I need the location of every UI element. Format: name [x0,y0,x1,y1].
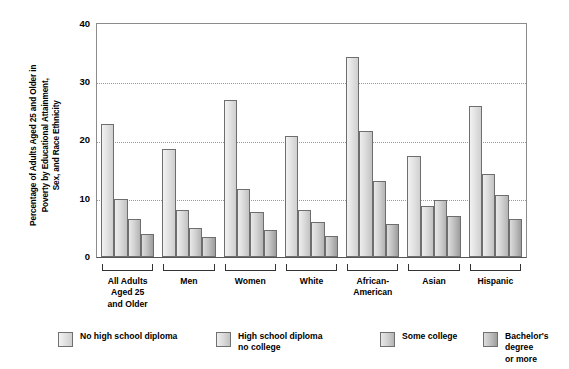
bar [346,57,359,257]
bar-chart: Percentage of Adults Aged 25 and Older i… [0,0,569,369]
bar [298,210,311,257]
bar [509,219,522,257]
y-tick-0: 0 [56,251,90,262]
category-bracket [408,264,459,271]
legend-label: Some college [402,331,457,342]
bar [114,199,127,257]
legend-label: High school diploma no college [238,331,323,354]
bar [128,219,141,257]
bar [447,216,460,257]
category-label: Hispanic [457,276,534,287]
bar-group [162,24,215,257]
category-bracket [163,264,214,271]
legend-swatch-icon [483,332,498,347]
category-bracket [286,264,337,271]
bar-group [285,24,338,257]
bar [482,174,495,257]
y-tick-10: 10 [56,193,90,204]
bar [162,149,175,257]
y-tick-40: 40 [56,18,90,29]
bar [101,124,114,257]
bar [250,212,263,257]
legend-item[interactable]: Some college [380,331,457,347]
legend-label: Bachelor's degree or more [505,331,558,365]
legend-swatch-icon [216,332,231,347]
bar-group [469,24,522,257]
bar [141,234,154,257]
category-bracket [347,264,398,271]
bar [311,222,324,257]
category-bracket [225,264,276,271]
bar [202,237,215,257]
legend-swatch-icon [380,332,395,347]
bar [386,224,399,257]
bar [434,200,447,257]
bars-layer [97,24,526,257]
bar [407,156,420,257]
bar [421,206,434,257]
bar [495,195,508,257]
bar [285,136,298,257]
bar-group [346,24,399,257]
legend-item[interactable]: Bachelor's degree or more [483,331,558,365]
legend-swatch-icon [58,332,73,347]
legend-item[interactable]: No high school diploma [58,331,177,347]
bar [264,230,277,257]
legend-label: No high school diploma [80,331,177,342]
x-axis-categories: All Adults Aged 25 and OlderMenWomenWhit… [97,258,526,318]
legend: No high school diplomaHigh school diplom… [58,331,558,365]
bar [469,106,482,257]
bar-group [407,24,460,257]
bar [189,228,202,257]
legend-item[interactable]: High school diploma no college [216,331,323,354]
y-tick-20: 20 [56,134,90,145]
y-tick-30: 30 [56,76,90,87]
bar [224,100,237,257]
bar [359,131,372,257]
bar-group [224,24,277,257]
bar [373,181,386,257]
bar [176,210,189,257]
bar-group [101,24,154,257]
bar [237,189,250,257]
bar [325,236,338,257]
category-bracket [470,264,521,271]
category-bracket [102,264,153,271]
